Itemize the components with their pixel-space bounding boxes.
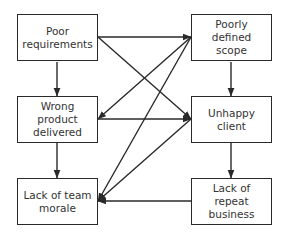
edge-unhappy-client-to-lack-of-team-morale	[98, 119, 191, 201]
node-wrong-product-delivered: Wrong product delivered	[17, 96, 98, 143]
node-poorly-defined-scope: Poorly defined scope	[191, 14, 272, 61]
node-unhappy-client: Unhappy client	[191, 96, 272, 143]
node-lack-of-repeat-business: Lack of repeat business	[191, 178, 272, 225]
node-poor-requirements: Poor requirements	[17, 14, 98, 61]
node-lack-of-team-morale: Lack of team morale	[17, 178, 98, 225]
